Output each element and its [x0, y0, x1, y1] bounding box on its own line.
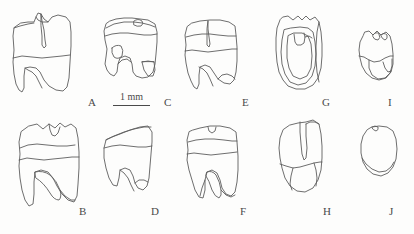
- specimen-drawing-c: [100, 12, 162, 88]
- scale-bar: 1 mm: [113, 92, 150, 106]
- specimen-drawing-b: [17, 118, 82, 210]
- panel-label-c: C: [164, 97, 172, 108]
- panel-label-e: E: [242, 97, 249, 108]
- specimen-drawing-i: [355, 26, 397, 82]
- specimen-drawing-j: [358, 122, 400, 179]
- panel-label-h: H: [323, 206, 331, 217]
- specimen-drawing-g: [272, 12, 327, 92]
- panel-label-g: G: [322, 97, 330, 108]
- figure-plate: A 1 mm C E: [0, 0, 414, 234]
- panel-label-j: J: [389, 206, 393, 217]
- panel-label-i: I: [388, 97, 392, 108]
- specimen-drawing-d: [100, 120, 156, 194]
- specimen-drawing-h: [276, 116, 328, 196]
- scale-bar-rule: [113, 105, 150, 106]
- specimen-drawing-e: [182, 17, 239, 95]
- scale-bar-label: 1 mm: [113, 92, 150, 102]
- panel-label-b: B: [79, 206, 87, 217]
- panel-label-d: D: [151, 206, 159, 217]
- specimen-drawing-a: [8, 10, 80, 95]
- panel-label-a: A: [88, 97, 96, 108]
- panel-label-f: F: [240, 206, 246, 217]
- specimen-drawing-f: [184, 120, 240, 203]
